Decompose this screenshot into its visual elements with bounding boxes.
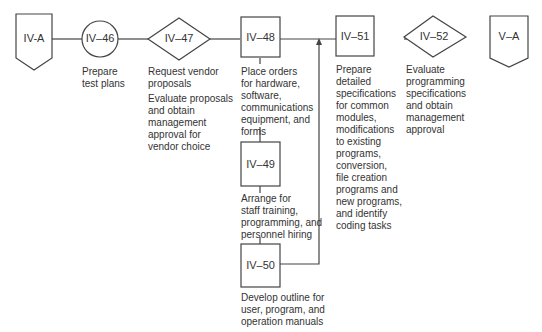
description-iv-51: Prepare detailed specifications for comm… [336, 64, 402, 232]
description-iv-50: Develop outline for user, program, and o… [241, 292, 325, 328]
node-label-iv-49: IV–49 [241, 158, 280, 170]
node-label-iv-51: IV–51 [336, 30, 374, 42]
node-label-iv-46: IV–46 [82, 32, 118, 44]
description-iv-49: Arrange for staff training, programming,… [241, 193, 322, 241]
node-label-v-a: V–A [490, 30, 528, 42]
description-iv-46: Prepare test plans [82, 66, 125, 90]
node-label-iv-52: IV–52 [414, 30, 454, 42]
node-label-iv-50: IV–50 [241, 259, 280, 271]
description2-iv-47: Evaluate proposals and obtain management… [148, 93, 233, 153]
description-iv-52: Evaluate programming specifications and … [406, 64, 466, 136]
node-label-iv-47: IV–47 [160, 32, 198, 44]
description-iv-48: Place orders for hardware, software, com… [241, 66, 313, 138]
node-label-iv-48: IV–48 [241, 31, 280, 43]
node-label-iv-a: IV-A [16, 32, 52, 44]
description-iv-47: Request vendor proposals [148, 66, 219, 90]
